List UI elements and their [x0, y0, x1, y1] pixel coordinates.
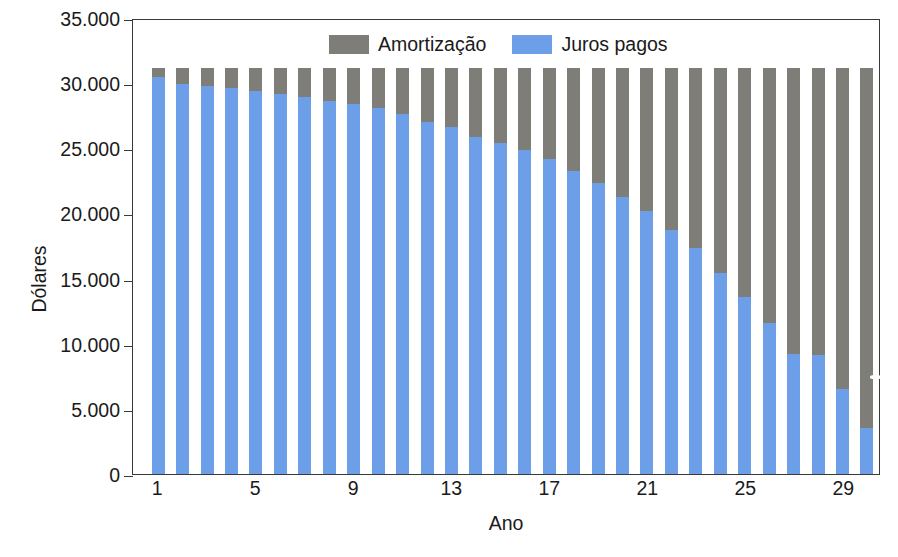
bar-slot[interactable]	[635, 20, 659, 474]
bar-slot[interactable]	[610, 20, 634, 474]
bar-slot[interactable]	[244, 20, 268, 474]
stacked-bar[interactable]	[469, 68, 482, 474]
bar-segment-amortizacao	[469, 68, 482, 137]
bar-slot[interactable]	[537, 20, 561, 474]
stacked-bar[interactable]	[152, 68, 165, 474]
bar-segment-amortizacao	[274, 68, 287, 95]
stacked-bar[interactable]	[543, 68, 556, 474]
bar-segment-juros-pagos	[592, 183, 605, 474]
bar-segment-juros-pagos	[249, 91, 262, 474]
stacked-bar[interactable]	[763, 68, 776, 474]
bar-slot[interactable]	[170, 20, 194, 474]
bar-slot[interactable]	[757, 20, 781, 474]
bar-slot[interactable]	[464, 20, 488, 474]
stacked-bar[interactable]	[249, 68, 262, 474]
legend-swatch-amortizacao	[329, 35, 369, 54]
stacked-bar[interactable]	[225, 68, 238, 474]
bar-slot[interactable]	[586, 20, 610, 474]
stacked-bar[interactable]	[689, 68, 702, 474]
bar-slot[interactable]	[293, 20, 317, 474]
stacked-bar[interactable]	[323, 68, 336, 474]
bar-slot[interactable]	[830, 20, 854, 474]
bar-slot[interactable]	[146, 20, 170, 474]
stacked-bar[interactable]	[201, 68, 214, 474]
stacked-bar[interactable]	[714, 68, 727, 474]
bar-slot[interactable]	[366, 20, 390, 474]
bar-segment-amortizacao	[616, 68, 629, 197]
bar-segment-amortizacao	[298, 68, 311, 98]
stacked-bar[interactable]	[372, 68, 385, 474]
stacked-bar[interactable]	[812, 68, 825, 474]
bar-segment-juros-pagos	[567, 171, 580, 474]
stacked-bar[interactable]	[616, 68, 629, 474]
bar-slot[interactable]	[317, 20, 341, 474]
x-tick-label: 9	[348, 477, 359, 500]
x-tick-label: 1	[152, 477, 163, 500]
x-tick-label: 21	[636, 477, 658, 500]
stacked-bar[interactable]	[298, 68, 311, 474]
bar-segment-amortizacao	[763, 68, 776, 323]
bar-segment-juros-pagos	[421, 122, 434, 474]
legend-label: Amortização	[378, 33, 486, 56]
legend-entry[interactable]: Juros pagos	[512, 33, 667, 56]
bar-segment-juros-pagos	[640, 211, 653, 474]
bar-slot[interactable]	[488, 20, 512, 474]
bar-slot[interactable]	[390, 20, 414, 474]
bar-segment-amortizacao	[812, 68, 825, 355]
bar-segment-amortizacao	[640, 68, 653, 211]
bar-slot[interactable]	[219, 20, 243, 474]
bar-segment-juros-pagos	[787, 354, 800, 474]
bar-slot[interactable]	[684, 20, 708, 474]
bar-slot[interactable]	[733, 20, 757, 474]
stacked-bar[interactable]	[347, 68, 360, 474]
bar-slot[interactable]	[268, 20, 292, 474]
bar-slot[interactable]	[855, 20, 879, 474]
bar-segment-juros-pagos	[347, 104, 360, 474]
stacked-bar[interactable]	[494, 68, 507, 474]
stacked-bar[interactable]	[860, 68, 873, 474]
bar-segment-amortizacao	[714, 68, 727, 273]
bar-slot[interactable]	[781, 20, 805, 474]
stacked-bar[interactable]	[445, 68, 458, 474]
y-tick-label: 35.000	[60, 8, 120, 31]
stacked-bar[interactable]	[787, 68, 800, 474]
stacked-bar[interactable]	[640, 68, 653, 474]
bar-slot[interactable]	[513, 20, 537, 474]
stacked-bar[interactable]	[567, 68, 580, 474]
bar-slot[interactable]	[195, 20, 219, 474]
stacked-bar[interactable]	[176, 68, 189, 474]
stacked-bar[interactable]	[396, 68, 409, 474]
y-tick-mark	[124, 215, 133, 216]
stacked-bar[interactable]	[738, 68, 751, 474]
stacked-bar[interactable]	[518, 68, 531, 474]
chart-legend: AmortizaçãoJuros pagos	[329, 33, 668, 56]
legend-entry[interactable]: Amortização	[329, 33, 486, 56]
bar-slot[interactable]	[561, 20, 585, 474]
bar-slot[interactable]	[415, 20, 439, 474]
bar-segment-juros-pagos	[494, 143, 507, 474]
bar-slot[interactable]	[806, 20, 830, 474]
y-tick-label: 0	[109, 464, 120, 487]
stacked-bar[interactable]	[665, 68, 678, 474]
bar-segment-juros-pagos	[152, 77, 165, 474]
bar-segment-juros-pagos	[225, 88, 238, 474]
y-axis-title: Dólares	[28, 245, 51, 312]
x-tick-label: 5	[250, 477, 261, 500]
bar-slot[interactable]	[439, 20, 463, 474]
stacked-bar[interactable]	[592, 68, 605, 474]
bar-segment-amortizacao	[225, 68, 238, 89]
y-tick-label: 5.000	[71, 398, 120, 421]
bar-slot[interactable]	[708, 20, 732, 474]
plot-area	[132, 19, 880, 475]
scan-artifact	[870, 375, 881, 379]
bar-slot[interactable]	[659, 20, 683, 474]
stacked-bar[interactable]	[421, 68, 434, 474]
bar-slot[interactable]	[342, 20, 366, 474]
legend-swatch-juros	[512, 35, 552, 54]
bar-segment-juros-pagos	[298, 97, 311, 474]
bar-segment-juros-pagos	[836, 389, 849, 474]
bar-segment-amortizacao	[787, 68, 800, 355]
bar-segment-amortizacao	[445, 68, 458, 128]
stacked-bar[interactable]	[274, 68, 287, 474]
stacked-bar[interactable]	[836, 68, 849, 474]
